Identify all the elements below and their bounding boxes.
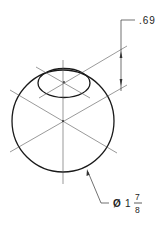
technical-drawing: .69 Ø 1 7 8	[0, 0, 166, 231]
depth-dimension-label: .69	[139, 15, 156, 26]
depth-arrow-up-icon	[120, 51, 123, 58]
sphere-center-mark	[62, 120, 64, 122]
ellipse-center-mark	[63, 81, 65, 83]
diameter-denominator: 8	[135, 205, 140, 215]
depth-dimension-line	[121, 20, 135, 91]
diameter-symbol: Ø	[113, 198, 121, 209]
diameter-leader-line	[88, 172, 109, 203]
diameter-numerator: 7	[135, 192, 140, 202]
diameter-whole: 1	[125, 198, 131, 209]
depth-arrow-down-icon	[120, 79, 123, 86]
ellipse-centerline-ascending	[39, 46, 127, 98]
